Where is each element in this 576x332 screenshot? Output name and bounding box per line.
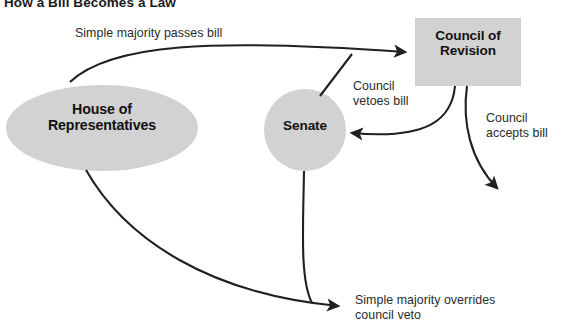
edge-label-vetoes-bill: Council vetoes bill [353,79,409,108]
diagram-canvas: How a Bill Becomes a Law House of Repres… [0,0,576,332]
node-house-label: House of Representatives [10,102,194,134]
edge-senate-to-override [303,171,312,303]
edge-label-accepts-bill: Council accepts bill [486,111,548,140]
node-council-label: Council of Revision [414,28,522,58]
edge-label-overrides-veto: Simple majority overrides council veto [355,293,495,322]
edge-passes-bill [70,45,405,82]
node-senate-label: Senate [262,118,348,133]
edge-overrides-council-veto [86,170,338,306]
edge-senate-to-council [320,54,352,96]
edge-label-passes-bill: Simple majority passes bill [75,26,222,41]
